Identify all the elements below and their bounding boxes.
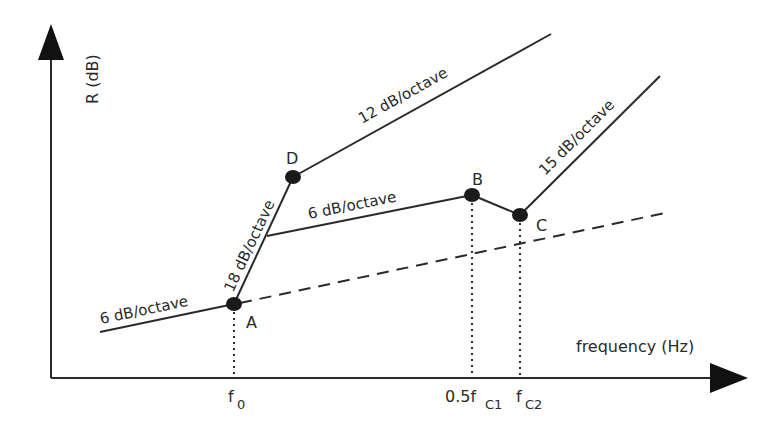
- point-c-marker: [512, 208, 528, 222]
- y-axis: [38, 24, 64, 378]
- point-a-label: A: [246, 313, 257, 332]
- tick-fc1-main: 0.5f: [445, 387, 476, 406]
- solid-segments: [100, 34, 660, 332]
- point-d-marker: [285, 170, 301, 184]
- segment-12db: [293, 34, 551, 177]
- tick-f0-sub: 0: [237, 397, 245, 412]
- dotted-drop-lines: [234, 203, 520, 378]
- x-axis-label: frequency (Hz): [576, 337, 694, 356]
- segment-15db: [520, 76, 660, 215]
- sound-reduction-diagram: A D B C 6 dB/octave 18 dB/octave 12 dB/o…: [0, 0, 780, 432]
- tick-fc2-main: f: [516, 387, 522, 406]
- tick-fc1-sub: C1: [485, 397, 502, 412]
- point-a-marker: [226, 297, 242, 311]
- point-b-label: B: [472, 170, 483, 189]
- tick-f0: f 0: [228, 387, 245, 412]
- tick-fc1: 0.5f C1: [445, 387, 502, 412]
- dashed-mass-law-line: [240, 213, 665, 303]
- x-axis: [51, 363, 748, 393]
- tick-fc2-sub: C2: [525, 397, 542, 412]
- point-d-label: D: [286, 149, 298, 168]
- y-axis-arrow-icon: [38, 24, 64, 60]
- y-axis-label: R (dB): [83, 54, 102, 104]
- segment-18db-label: 18 dB/octave: [220, 197, 278, 295]
- tick-f0-main: f: [228, 387, 234, 406]
- segment-15db-label: 15 dB/octave: [535, 96, 618, 179]
- segment-12db-label: 12 dB/octave: [355, 64, 451, 128]
- tick-fc2: f C2: [516, 387, 542, 412]
- segment-mid-label: 6 dB/octave: [306, 188, 398, 223]
- point-c-label: C: [536, 216, 547, 235]
- x-axis-arrow-icon: [710, 363, 748, 393]
- point-b-marker: [464, 188, 480, 202]
